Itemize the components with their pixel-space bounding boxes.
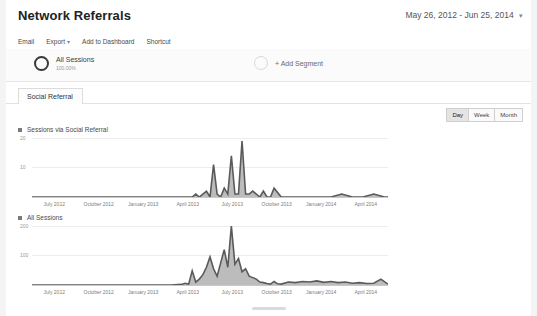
- email-button[interactable]: Email: [18, 38, 34, 45]
- tab-social-referral[interactable]: Social Referral: [18, 88, 83, 104]
- page-header: Network Referrals May 26, 2012 - Jun 25,…: [18, 8, 523, 30]
- report-toolbar: Email Export▾ Add to Dashboard Shortcut: [18, 38, 171, 45]
- page-left-margin: [0, 0, 6, 316]
- x-axis-tick: January 2013: [128, 289, 158, 295]
- chevron-down-icon: ▾: [67, 39, 70, 45]
- add-segment-label: + Add Segment: [275, 60, 323, 67]
- segment-bar: All Sessions 100.00% + Add Segment: [6, 49, 531, 82]
- x-axis-tick: January 2013: [128, 201, 158, 207]
- analytics-page: Network Referrals May 26, 2012 - Jun 25,…: [0, 0, 537, 316]
- x-axis-tick: April 2014: [354, 201, 377, 207]
- x-axis-tick: January 2014: [306, 289, 336, 295]
- x-axis-tick: January 2014: [306, 201, 336, 207]
- y-axis-tick-mid: 10: [20, 165, 26, 170]
- y-axis-tick-top: 20: [20, 136, 26, 141]
- segment-text: All Sessions 100.00%: [56, 56, 94, 71]
- tab-label: Social Referral: [27, 93, 73, 100]
- legend-swatch-icon: [18, 128, 22, 132]
- x-axis-tick: October 2013: [262, 201, 292, 207]
- granularity-month-button[interactable]: Month: [494, 108, 523, 122]
- page-title: Network Referrals: [18, 8, 131, 23]
- x-axis-tick: October 2012: [84, 201, 114, 207]
- x-axis-0: July 2012October 2012January 2013April 2…: [32, 198, 388, 210]
- chart-title: All Sessions: [27, 214, 62, 221]
- x-axis-tick: April 2013: [176, 201, 199, 207]
- x-axis-tick: July 2013: [222, 289, 243, 295]
- chart-legend: Sessions via Social Referral: [18, 126, 388, 133]
- x-axis-tick: October 2012: [84, 289, 114, 295]
- chart-plot-0[interactable]: [32, 138, 388, 197]
- y-axis-tick-mid: 100: [20, 253, 28, 258]
- granularity-day-button[interactable]: Day: [446, 108, 469, 122]
- add-segment-button[interactable]: + Add Segment: [254, 56, 323, 70]
- segment-name: All Sessions: [56, 56, 94, 65]
- chart-plot-1[interactable]: [32, 226, 388, 285]
- x-axis-tick: April 2014: [354, 289, 377, 295]
- date-range-selector[interactable]: May 26, 2012 - Jun 25, 2014 ▾: [405, 10, 523, 20]
- plot-area-wrapper: 20 10: [18, 136, 388, 198]
- page-right-margin: [531, 0, 537, 316]
- segment-ring-icon: [254, 56, 268, 70]
- x-axis-tick: July 2012: [44, 201, 65, 207]
- chart-title: Sessions via Social Referral: [27, 126, 108, 133]
- segment-ring-icon: [34, 56, 49, 71]
- horizontal-scrollbar[interactable]: [252, 307, 286, 310]
- plot-area-wrapper: 200 100: [18, 224, 388, 286]
- granularity-controls: Day Week Month: [447, 108, 523, 122]
- export-label: Export: [46, 38, 65, 45]
- date-range-label: May 26, 2012 - Jun 25, 2014: [405, 10, 513, 20]
- granularity-week-button[interactable]: Week: [468, 108, 495, 122]
- x-axis-1: July 2012October 2012January 2013April 2…: [32, 286, 388, 298]
- tabs-divider: [6, 103, 531, 104]
- x-axis-tick: July 2012: [44, 289, 65, 295]
- x-axis-tick: July 2013: [222, 201, 243, 207]
- chart-sessions-via-social-referral: Sessions via Social Referral 20 10 July …: [18, 126, 388, 210]
- chevron-down-icon: ▾: [519, 12, 523, 20]
- segment-percentage: 100.00%: [56, 65, 94, 71]
- segment-all-sessions[interactable]: All Sessions 100.00%: [34, 56, 94, 71]
- chart-all-sessions: All Sessions 200 100 July 2012October 20…: [18, 214, 388, 298]
- report-tabs: Social Referral: [18, 88, 83, 104]
- chart-legend: All Sessions: [18, 214, 388, 221]
- export-button[interactable]: Export▾: [46, 38, 70, 45]
- shortcut-button[interactable]: Shortcut: [146, 38, 170, 45]
- add-to-dashboard-button[interactable]: Add to Dashboard: [82, 38, 134, 45]
- x-axis-tick: October 2013: [262, 289, 292, 295]
- y-axis-tick-top: 200: [20, 224, 28, 229]
- legend-swatch-icon: [18, 216, 22, 220]
- x-axis-tick: April 2013: [176, 289, 199, 295]
